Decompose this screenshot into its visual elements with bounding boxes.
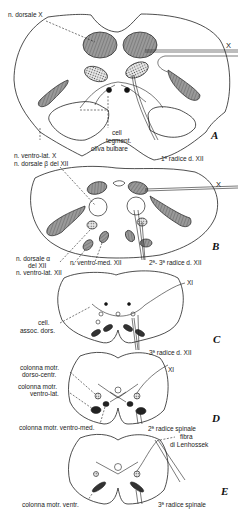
label-ventro-med: colonna motr. ventro-med. xyxy=(19,424,95,431)
panel-letter-a: A xyxy=(211,129,218,141)
label-colonna-ventr: colonna motr. ventr. xyxy=(22,501,79,508)
label-x-nerve-b: X xyxy=(216,180,221,189)
section-c-nuclei xyxy=(90,303,145,338)
label-ventro-med-xii: n. ventro-med. XII xyxy=(70,259,122,266)
label-dorsale-alpha-2: del XII xyxy=(28,262,46,269)
label-oliva-bulbare: oliva bulbare xyxy=(91,145,128,152)
label-ventro-lat-x: n. ventro-lat. X xyxy=(14,152,56,159)
section-b-outline xyxy=(31,166,218,258)
panel-letter-c: C xyxy=(213,333,220,345)
label-2a-3a-radice: 2ª- 3ª radice d. XII xyxy=(149,259,202,266)
label-ventro-lat-xii: n. ventro-lat. XII xyxy=(16,269,62,276)
label-dorsale-beta: n. dorsale β del XII xyxy=(14,160,68,167)
label-x-nerve: X xyxy=(226,41,231,50)
panel-letter-b: B xyxy=(212,240,219,252)
section-c-outline xyxy=(58,271,184,343)
label-cell-assoc-2: assoc. dors. xyxy=(20,327,55,334)
label-dorso-centr-1: colonna motr. xyxy=(20,364,59,371)
label-3a-radice-xii: 3ª radice d. XII xyxy=(149,349,192,356)
label-ventro-lat-1: colonna motr. xyxy=(18,383,57,390)
label-dorsale-alpha-1: n. dorsale α xyxy=(16,255,50,262)
panel-letter-e: E xyxy=(221,485,228,497)
label-dorso-centr-2: dorso-centr. xyxy=(22,371,56,378)
label-xi-d: XI xyxy=(168,366,174,373)
label-n-dorsale-x: n. dorsale X xyxy=(8,11,43,18)
section-a-nuclei xyxy=(38,32,200,107)
panel-letter-d: D xyxy=(212,412,220,424)
label-1a-radice: 1ª radice d. XII xyxy=(161,155,204,162)
label-fibra-1: fibra xyxy=(180,433,193,440)
label-cell-tegment-1: cell xyxy=(112,129,122,136)
label-3a-radice-spinale: 3ª radice spinale xyxy=(158,501,206,508)
label-cell-tegment-2: tegment. xyxy=(106,137,131,144)
label-cell-assoc-1: cell. xyxy=(38,319,50,326)
label-fibra-2: di Lenhossek xyxy=(170,441,208,448)
label-xi: XI xyxy=(187,279,193,286)
label-ventro-lat-2: ventro-lat. xyxy=(30,390,59,397)
label-2a-radice-spinale: 2ª radice spinale xyxy=(148,425,196,432)
